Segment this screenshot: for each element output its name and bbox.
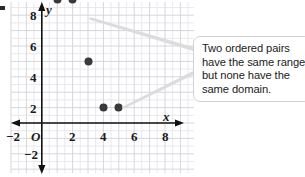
origin-label: O xyxy=(31,130,40,143)
callout-box: Two ordered pairs have the same range, b… xyxy=(193,36,305,102)
data-point xyxy=(100,104,107,111)
x-tick-label-4: 4 xyxy=(100,130,107,143)
x-axis-label: x xyxy=(163,110,170,123)
y-tick-label-6: 6 xyxy=(30,40,37,53)
figure-canvas: 8 6 4 2 −2 −2 O 2 4 6 8 y x Two ordered … xyxy=(0,0,305,177)
y-tick-label-2: 2 xyxy=(30,102,37,115)
y-tick-label-4: 4 xyxy=(30,71,37,84)
x-tick-label-6: 6 xyxy=(131,130,138,143)
y-tick-label-8: 8 xyxy=(30,9,37,22)
x-tick-label-2: 2 xyxy=(69,130,76,143)
coordinate-plane: 8 6 4 2 −2 −2 O 2 4 6 8 y x xyxy=(0,0,198,177)
y-axis-label: y xyxy=(46,3,52,16)
data-point xyxy=(85,58,92,65)
callout-text: Two ordered pairs have the same range, b… xyxy=(202,42,305,96)
y-tick-label-neg2: −2 xyxy=(24,148,38,161)
x-tick-label-neg2: −2 xyxy=(6,130,20,143)
x-tick-label-8: 8 xyxy=(162,130,169,143)
